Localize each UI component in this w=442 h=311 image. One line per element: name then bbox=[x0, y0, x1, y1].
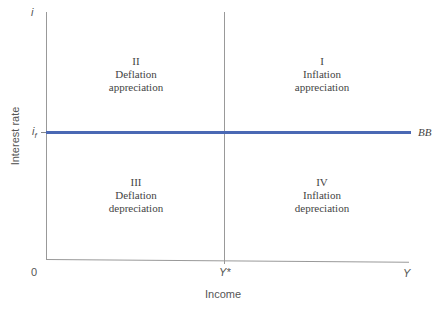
quadrant-iv-line2: depreciation bbox=[262, 202, 382, 215]
x-axis-end-label: Y bbox=[403, 267, 410, 279]
quadrant-iv-line1: Inflation bbox=[262, 189, 382, 202]
origin-label: 0 bbox=[31, 266, 37, 278]
quadrant-ii: II Deflation appreciation bbox=[76, 55, 196, 94]
quadrant-iii-line1: Deflation bbox=[76, 189, 196, 202]
y-axis-title: Interest rate bbox=[9, 96, 21, 176]
quadrant-iv: IV Inflation depreciation bbox=[262, 176, 382, 215]
full-employment-line bbox=[224, 12, 225, 264]
quadrant-i-numeral: I bbox=[262, 55, 382, 68]
x-axis bbox=[46, 259, 409, 263]
quadrant-ii-line2: appreciation bbox=[76, 81, 196, 94]
quadrant-iii-numeral: III bbox=[76, 176, 196, 189]
x-axis-title: Income bbox=[205, 288, 241, 300]
bb-line bbox=[46, 131, 411, 134]
ystar-label: Y* bbox=[219, 266, 231, 278]
bb-label: BB bbox=[418, 126, 431, 138]
quadrant-i: I Inflation appreciation bbox=[262, 55, 382, 94]
y-axis bbox=[46, 12, 47, 260]
quadrant-iv-numeral: IV bbox=[262, 176, 382, 189]
quadrant-ii-numeral: II bbox=[76, 55, 196, 68]
quadrant-i-line2: appreciation bbox=[262, 81, 382, 94]
if-label: if bbox=[32, 125, 37, 140]
quadrant-ii-line1: Deflation bbox=[76, 68, 196, 81]
quadrant-i-line1: Inflation bbox=[262, 68, 382, 81]
quadrant-iii: III Deflation depreciation bbox=[76, 176, 196, 215]
quadrant-iii-line2: depreciation bbox=[76, 202, 196, 215]
y-axis-top-label: i bbox=[31, 6, 33, 18]
